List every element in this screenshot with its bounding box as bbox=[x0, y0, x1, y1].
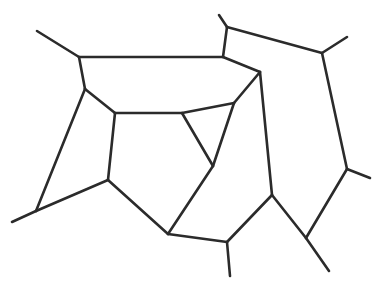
edge-B-C bbox=[79, 57, 85, 89]
graph-diagram bbox=[0, 0, 377, 285]
edge-L-E bbox=[182, 103, 234, 113]
edge-S-T bbox=[227, 242, 230, 276]
edge-J-K bbox=[322, 37, 347, 53]
edge-H-I bbox=[223, 57, 260, 72]
edge-G-J bbox=[227, 27, 322, 53]
edge-E-Q bbox=[182, 113, 213, 166]
edge-U-R bbox=[272, 195, 306, 238]
edge-S-R bbox=[227, 195, 272, 242]
edge-O-P bbox=[108, 180, 168, 234]
edge-P-S bbox=[168, 234, 227, 242]
edge-D-O bbox=[108, 113, 115, 180]
edge-G-F bbox=[219, 15, 227, 27]
edge-H-G bbox=[223, 27, 227, 57]
edge-Q-P bbox=[168, 166, 213, 234]
edge-R-I bbox=[260, 72, 272, 195]
edge-U-V bbox=[306, 238, 329, 271]
edge-W-U bbox=[306, 169, 347, 238]
edge-L-Q bbox=[213, 103, 234, 166]
edge-W-X bbox=[347, 169, 370, 178]
edge-A-B bbox=[37, 31, 79, 57]
edge-J-W bbox=[322, 53, 347, 169]
edge-C-D bbox=[85, 89, 115, 113]
edge-I-L bbox=[234, 72, 260, 103]
edge-N-M bbox=[12, 211, 36, 222]
